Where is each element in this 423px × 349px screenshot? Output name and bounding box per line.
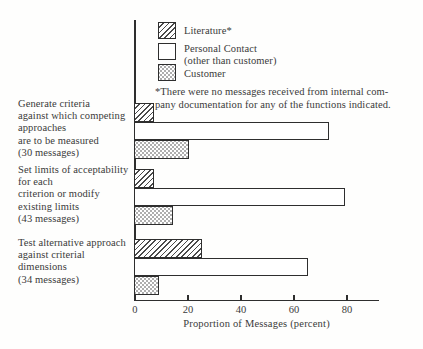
bar-plain-group3 <box>134 258 308 277</box>
bar-plain-group2 <box>134 188 345 207</box>
bar-plain-group1 <box>134 122 329 141</box>
footnote-line1: *There were no messages received from in… <box>155 86 388 97</box>
x-axis-tick-label-40: 40 <box>226 304 256 315</box>
bar-stipple-group1 <box>134 140 189 159</box>
bar-stipple-group2 <box>134 206 173 225</box>
legend-label-personal-contact: Personal Contact <box>184 43 257 54</box>
x-axis-tick-label-0: 0 <box>120 304 150 315</box>
x-axis-title: Proportion of Messages (percent) <box>135 318 378 329</box>
x-axis-tick-60 <box>293 295 295 301</box>
bar-diagonal-hatch-group2 <box>134 169 154 188</box>
x-axis-tick-label-60: 60 <box>279 304 309 315</box>
category-label-group3: Test alternative approach against criter… <box>18 237 126 286</box>
legend-swatch-personal-contact-icon <box>158 43 176 60</box>
footnote-line2: pany documentation for any of the functi… <box>155 99 391 110</box>
bar-diagonal-hatch-group1 <box>134 103 154 122</box>
x-axis-line <box>134 300 379 302</box>
x-axis-tick-label-20: 20 <box>173 304 203 315</box>
bar-diagonal-hatch-group3 <box>134 239 202 258</box>
scanned-figure-page: Generate criteria against which competin… <box>0 0 423 349</box>
legend-label-customer: Customer <box>184 68 226 79</box>
category-label-group2: Set limits of acceptability for each cri… <box>18 164 128 225</box>
legend-label-personal-contact-sub: (other than customer) <box>184 55 276 66</box>
legend-label-literature: Literature* <box>184 25 232 36</box>
legend-swatch-customer-icon <box>158 64 176 81</box>
x-axis-tick-80 <box>346 295 348 301</box>
category-label-group1: Generate criteria against which competin… <box>18 98 125 159</box>
bar-stipple-group3 <box>134 276 159 295</box>
x-axis-tick-20 <box>187 295 189 301</box>
x-axis-tick-40 <box>240 295 242 301</box>
legend-swatch-literature-icon <box>158 22 176 39</box>
x-axis-tick-label-80: 80 <box>332 304 362 315</box>
footnote: *There were no messages received from in… <box>155 86 421 111</box>
